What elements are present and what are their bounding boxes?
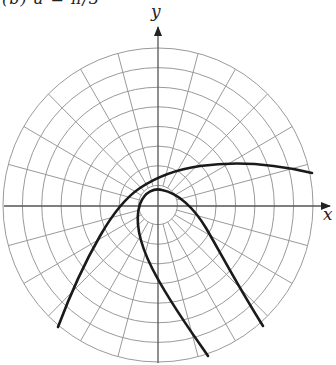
polar-graph (0, 0, 336, 365)
grid-spoke (172, 94, 268, 191)
grid-spoke (48, 94, 144, 191)
inner-curve (138, 189, 263, 356)
grid-spoke (48, 219, 144, 316)
grid-spoke (172, 219, 268, 316)
